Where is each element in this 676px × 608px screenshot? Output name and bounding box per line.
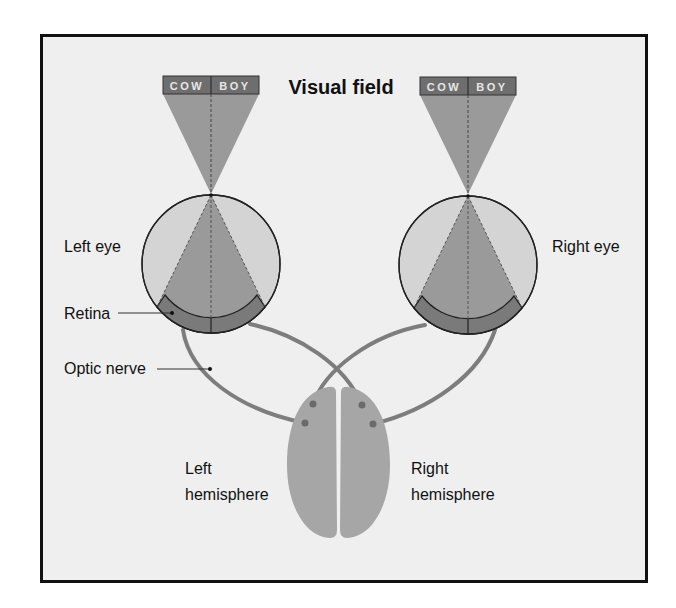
title-visual-field: Visual field (288, 76, 393, 98)
right-field-word-boy: BOY (476, 81, 507, 93)
label-left-eye: Left eye (64, 238, 121, 255)
label-optic-nerve: Optic nerve (64, 360, 146, 377)
left-field-word-cow: COW (170, 80, 204, 92)
right-visual-field: COW BOY (420, 77, 516, 194)
label-retina: Retina (64, 305, 110, 322)
visual-pathway-diagram: COW BOY COW BOY Visual field (0, 0, 676, 608)
right-field-cone (420, 95, 516, 194)
label-left-hemisphere-line2: hemisphere (185, 486, 269, 503)
nerve-right-eye-to-right-hemisphere (373, 330, 495, 424)
left-hemisphere (287, 387, 337, 538)
label-right-eye: Right eye (552, 238, 620, 255)
optic-nerves (183, 324, 495, 424)
left-visual-field: COW BOY (163, 76, 259, 194)
left-eye (142, 195, 280, 333)
brain (287, 387, 390, 538)
label-right-hemisphere-line1: Right (411, 460, 449, 477)
right-eye (399, 196, 537, 334)
label-left-hemisphere-line1: Left (185, 460, 212, 477)
left-field-word-boy: BOY (219, 80, 250, 92)
right-hemisphere (340, 387, 390, 538)
right-field-word-cow: COW (427, 81, 461, 93)
nerve-left-eye-to-left-hemisphere (183, 330, 305, 423)
label-right-hemisphere-line2: hemisphere (411, 486, 495, 503)
